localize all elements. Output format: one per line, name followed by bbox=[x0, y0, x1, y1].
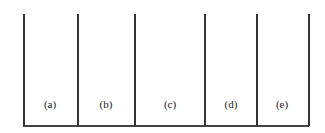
baseline bbox=[23, 125, 309, 127]
divider-5 bbox=[308, 14, 310, 126]
panel-label-c: (c) bbox=[164, 98, 176, 110]
divider-3 bbox=[204, 14, 206, 126]
divider-4 bbox=[256, 14, 258, 126]
divider-2 bbox=[134, 14, 136, 126]
panel-label-e: (e) bbox=[276, 98, 288, 110]
panel-label-a: (a) bbox=[44, 98, 56, 110]
panel-label-b: (b) bbox=[100, 98, 113, 110]
panel-label-d: (d) bbox=[225, 98, 238, 110]
divider-0 bbox=[23, 14, 25, 126]
divider-1 bbox=[77, 14, 79, 126]
